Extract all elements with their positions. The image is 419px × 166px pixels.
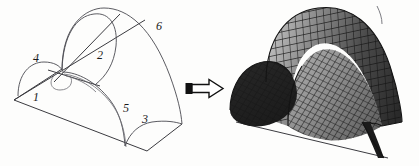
curve-label-3: 3 xyxy=(141,112,148,126)
wireframe-svg: 1 2 3 4 5 6 xyxy=(0,0,195,166)
curve-label-6: 6 xyxy=(156,19,162,33)
curve-labels: 1 2 3 4 5 6 xyxy=(33,19,162,126)
arch-curve-6 xyxy=(62,8,182,124)
curve-label-1: 1 xyxy=(33,90,39,104)
arch-curve-3 xyxy=(125,121,182,146)
construction-tick xyxy=(377,6,382,24)
curve-label-4: 4 xyxy=(33,51,39,65)
arrow-body-shape xyxy=(192,80,223,98)
arrow-tail-block xyxy=(186,84,192,94)
mesh-surface-svg xyxy=(222,0,419,166)
shaded-mesh-surface-panel xyxy=(222,0,419,166)
arch-curve-4 xyxy=(18,62,62,96)
curve-label-5: 5 xyxy=(123,101,129,115)
ground-quadrilateral xyxy=(14,69,182,151)
arch-curve-2 xyxy=(62,14,116,84)
curve-label-2: 2 xyxy=(97,48,103,62)
wireframe-curve-network-panel: 1 2 3 4 5 6 xyxy=(0,0,195,166)
figure-root: 1 2 3 4 5 6 xyxy=(0,0,419,166)
